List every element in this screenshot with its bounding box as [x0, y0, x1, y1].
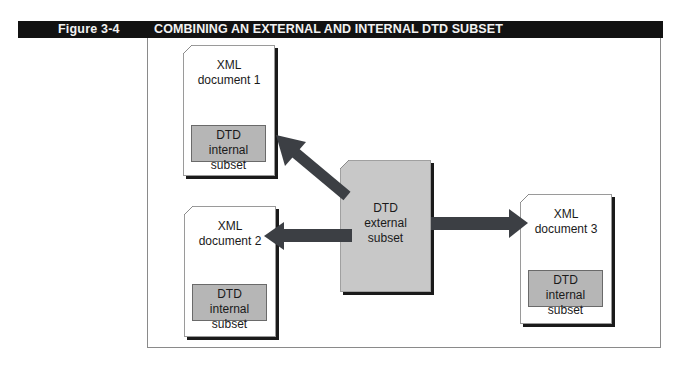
arrow-to-document-1: [276, 135, 347, 196]
arrow-to-document-3: [431, 209, 528, 238]
arrows-layer: [0, 0, 687, 366]
arrow-to-document-2: [264, 222, 352, 250]
